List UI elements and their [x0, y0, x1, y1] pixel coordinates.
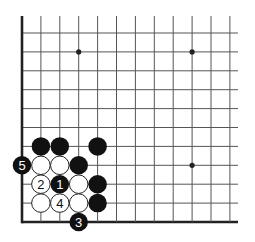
black-stone: [88, 137, 107, 156]
go-board: 52143: [0, 0, 255, 242]
black-stone-move-3: 3: [69, 213, 88, 232]
black-stone-icon: [88, 137, 107, 156]
black-stone-icon: [69, 156, 88, 175]
black-stone-icon: [88, 194, 107, 213]
white-stone-move-2: 2: [32, 175, 51, 194]
white-stone-icon: [32, 156, 51, 175]
white-stone: [32, 194, 51, 213]
white-stone: [51, 156, 70, 175]
white-stone-icon: [32, 194, 51, 213]
grid-lines: [22, 16, 238, 223]
move-number: 5: [18, 158, 25, 173]
move-number: 4: [56, 196, 63, 211]
black-stone: [51, 137, 70, 156]
black-stone-move-5: 5: [13, 156, 32, 175]
black-stone-icon: [51, 137, 70, 156]
black-stone: [88, 175, 107, 194]
black-stone: [69, 156, 88, 175]
white-stone-icon: [69, 175, 88, 194]
white-stone-move-4: 4: [51, 194, 70, 213]
move-number: 2: [37, 177, 44, 192]
white-stone-icon: [69, 194, 88, 213]
black-stone: [32, 137, 51, 156]
black-stone-move-1: 1: [51, 175, 70, 194]
black-stone-icon: [32, 137, 51, 156]
star-point-icon: [190, 49, 195, 54]
white-stone: [69, 194, 88, 213]
star-point-icon: [190, 163, 195, 168]
move-number: 3: [75, 215, 82, 230]
white-stone: [32, 156, 51, 175]
white-stone: [69, 175, 88, 194]
move-number: 1: [56, 177, 63, 192]
star-point-icon: [76, 49, 81, 54]
white-stone-icon: [51, 156, 70, 175]
black-stone: [88, 194, 107, 213]
black-stone-icon: [88, 175, 107, 194]
